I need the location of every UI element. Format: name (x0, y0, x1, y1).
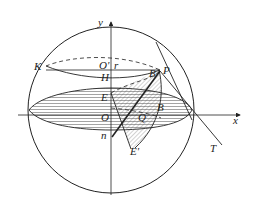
label-r: r (114, 59, 119, 71)
label-E-prime: E' (129, 145, 140, 157)
label-y: y (97, 16, 103, 28)
label-B: B (157, 101, 164, 113)
label-H: H (100, 71, 110, 83)
label-O: O (101, 111, 109, 123)
label-K: K (33, 60, 42, 72)
label-P: P (162, 64, 170, 76)
label-E: E (100, 91, 108, 103)
equatorial-disk (29, 88, 192, 130)
sphere-diagram: y x K O' r H E O n B P B Q E' T (0, 0, 256, 206)
label-B-upper: B (149, 67, 156, 79)
label-T: T (210, 142, 217, 154)
label-Q: Q (138, 111, 146, 123)
meridian-wedge (111, 70, 161, 149)
label-n: n (101, 129, 107, 141)
label-O-prime: O' (99, 59, 110, 71)
diagram-canvas: y x K O' r H E O n B P B Q E' T (0, 0, 256, 206)
label-x: x (232, 114, 238, 126)
